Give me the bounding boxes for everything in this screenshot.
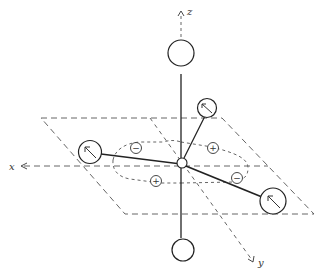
central-atom: [177, 158, 187, 168]
ligand-axial-top: [168, 40, 194, 66]
lobe-sign-lower-right: −: [232, 173, 243, 184]
x-axis: [21, 163, 268, 169]
molecular-orbital-diagram: z x y: [0, 0, 322, 276]
svg-text:−: −: [132, 143, 140, 153]
svg-text:+: +: [209, 143, 217, 153]
svg-text:−: −: [233, 173, 241, 183]
lobe-sign-lower-left: +: [151, 176, 162, 187]
z-axis: [178, 11, 184, 37]
z-axis-label: z: [186, 6, 193, 17]
lobe-sign-upper-right: +: [208, 143, 219, 154]
ligand-axial-bottom: [172, 239, 194, 261]
lobe-sign-upper-left: −: [131, 143, 142, 154]
svg-text:+: +: [152, 176, 160, 186]
y-axis: [150, 118, 254, 262]
ligand-equatorial-left: [79, 141, 102, 164]
ligand-equatorial-back: [198, 99, 217, 118]
bonds: [101, 74, 262, 238]
bond-back: [181, 116, 205, 164]
y-axis-label: y: [257, 257, 264, 268]
ligand-equatorial-front-right: [260, 188, 286, 214]
x-axis-label: x: [9, 161, 15, 172]
bond-front-right: [181, 164, 262, 197]
